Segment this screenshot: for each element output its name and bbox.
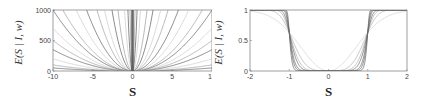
plot-frame xyxy=(250,10,407,71)
y-axis-label: E(S | I, w) xyxy=(12,20,25,66)
y-tick-label: 500 xyxy=(39,37,51,44)
y-tick-label: 0.5 xyxy=(238,37,248,44)
left-chart-plot: -10-5051005001000SE(S | I, w) xyxy=(0,0,212,100)
x-tick-label: 1 xyxy=(366,73,370,80)
y-tick-label: 0 xyxy=(47,68,51,75)
y-tick-label: 1 xyxy=(244,7,248,14)
y-tick-label: 1000 xyxy=(35,7,51,14)
x-tick-label: -5 xyxy=(90,73,96,80)
right-chart-plot: -2-101200.51SE(S | I, w) xyxy=(212,0,424,100)
x-tick-label: 5 xyxy=(170,73,174,80)
y-axis-label: E(S | I, w) xyxy=(212,20,225,66)
right-chart: -2-101200.51SE(S | I, w) xyxy=(212,0,424,100)
x-tick-label: 0 xyxy=(131,73,135,80)
left-chart: -10-5051005001000SE(S | I, w) xyxy=(0,0,212,100)
x-tick-label: 2 xyxy=(405,73,409,80)
x-axis-label: S xyxy=(129,84,136,99)
x-tick-label: -1 xyxy=(286,73,292,80)
x-axis-label: S xyxy=(325,84,332,99)
y-tick-label: 0 xyxy=(244,68,248,75)
x-tick-label: 0 xyxy=(327,73,331,80)
